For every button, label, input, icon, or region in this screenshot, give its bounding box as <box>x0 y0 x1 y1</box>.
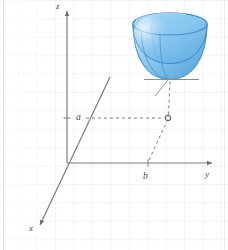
dashed-point-to-surface <box>169 80 171 115</box>
dashed-projection-group <box>86 80 170 160</box>
marker-label-b: b <box>143 172 148 182</box>
open-circle-point <box>165 115 170 120</box>
diagram-vector-layer <box>0 0 228 250</box>
dashed-b-to-point <box>149 122 167 161</box>
x-axis-line <box>40 77 110 225</box>
x-axis-label: x <box>29 224 33 233</box>
y-axis-label: y <box>205 170 209 179</box>
marker-label-a: a <box>76 113 81 123</box>
z-axis-label: z <box>56 2 60 11</box>
figure-canvas: z y x a b <box>0 0 228 250</box>
bowl-vertex-tangent-tick <box>155 80 168 96</box>
bowl-gloss-highlight <box>132 16 172 64</box>
